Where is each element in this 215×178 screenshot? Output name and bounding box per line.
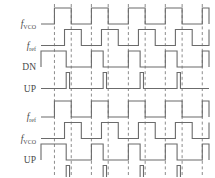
waveform-up — [41, 144, 209, 160]
pfd-timing-figure: fVCOfrefDNUPfreffVCOUPDN — [0, 0, 215, 177]
label-subscript: VCO — [23, 139, 36, 145]
signal-label-f-ref: fref — [27, 112, 36, 123]
waveform-f-vco — [41, 123, 209, 139]
waveform-up — [41, 73, 209, 89]
waveform-f-vco — [41, 8, 209, 24]
label-subscript: VCO — [23, 24, 36, 30]
signal-label-dn: DN — [22, 62, 36, 72]
label-subscript: ref — [29, 117, 36, 123]
signal-label-f-vco: fVCO — [21, 134, 37, 145]
waveform-dn — [41, 166, 209, 178]
signal-label-up: UP — [24, 155, 36, 165]
signal-label-f-vco: fVCO — [21, 19, 37, 30]
waveform-dn — [41, 51, 209, 67]
waveform-f-ref — [41, 101, 209, 117]
label-subscript: ref — [29, 46, 36, 52]
signal-label-up: UP — [24, 84, 36, 94]
waveform-f-ref — [41, 30, 209, 46]
signal-label-f-ref: fref — [27, 41, 36, 52]
timing-diagram-svg: fVCOfrefDNUPfreffVCOUPDN — [0, 0, 215, 177]
